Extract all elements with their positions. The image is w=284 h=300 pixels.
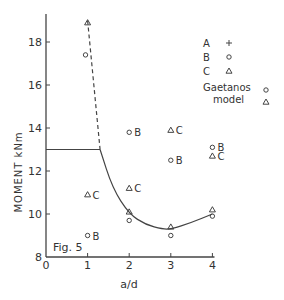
point-label: C <box>176 125 183 136</box>
point-label: C <box>134 183 141 194</box>
triangle-marker <box>263 99 269 104</box>
plus-marker <box>226 40 232 46</box>
line-dashed-branch <box>88 21 100 150</box>
x-tick-label: 4 <box>209 259 216 272</box>
y-tick-label: 10 <box>28 208 42 221</box>
figure-label: Fig. 5 <box>53 241 83 254</box>
triangle-marker <box>126 185 132 190</box>
point-label: B <box>176 155 183 166</box>
point-label: B <box>134 127 141 138</box>
legend-model-label: Gaetanos <box>203 82 251 93</box>
x-tick-label: 2 <box>126 259 133 272</box>
point-label: C <box>217 151 224 162</box>
legend-label: A <box>203 38 210 49</box>
circle-marker <box>264 88 268 92</box>
x-tick-label: 0 <box>43 259 50 272</box>
legend: ABCGaetanosmodel <box>203 38 269 105</box>
axes: 0123481012141618 <box>28 14 216 272</box>
y-tick-label: 16 <box>28 79 42 92</box>
circle-marker <box>210 145 214 149</box>
y-tick-label: 12 <box>28 165 42 178</box>
point-label: B <box>93 231 100 242</box>
triangle-marker <box>168 127 174 132</box>
legend-label: B <box>203 52 210 63</box>
circle-marker <box>127 130 131 134</box>
legend-model-label: model <box>213 94 244 105</box>
moment-vs-ad-chart: 0123481012141618 BBBBCCCC ABCGaetanosmod… <box>0 0 284 300</box>
triangle-marker <box>209 207 215 212</box>
plot-lines <box>46 21 212 230</box>
circle-marker <box>127 218 131 222</box>
circle-marker <box>169 158 173 162</box>
x-tick-label: 1 <box>84 259 91 272</box>
x-axis-label: a/d <box>120 278 137 291</box>
triangle-marker <box>209 153 215 158</box>
line-curve <box>100 150 212 230</box>
x-tick-label: 3 <box>167 259 174 272</box>
circle-marker <box>83 53 87 57</box>
circle-marker <box>85 233 89 237</box>
triangle-marker <box>85 192 91 197</box>
y-axis-label: MOMENT kNm <box>13 131 24 212</box>
circle-marker <box>227 55 231 59</box>
triangle-marker <box>226 68 232 73</box>
point-label: C <box>93 190 100 201</box>
y-tick-label: 8 <box>35 251 42 264</box>
y-tick-label: 18 <box>28 36 42 49</box>
circle-marker <box>169 233 173 237</box>
y-tick-label: 14 <box>28 122 42 135</box>
legend-label: C <box>203 66 210 77</box>
